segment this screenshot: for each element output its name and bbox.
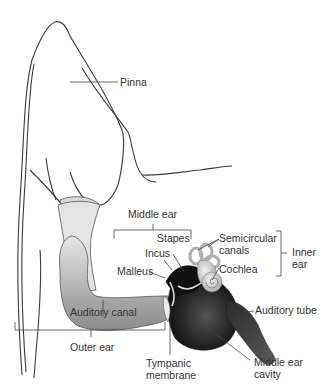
label-outer-ear: Outer ear: [70, 341, 114, 353]
label-pinna: Pinna: [120, 76, 147, 88]
label-middle-ear-cavity-2: cavity: [254, 368, 281, 380]
label-middle-ear-cavity-1: Middle ear: [254, 356, 303, 368]
label-semicircular-canals-1: Semicircular: [219, 232, 277, 244]
ear-anatomy-diagram: [0, 0, 335, 392]
label-malleus: Malleus: [117, 265, 153, 277]
label-middle-ear: Middle ear: [128, 208, 177, 220]
label-cochlea: Cochlea: [219, 263, 258, 275]
label-stapes: Stapes: [157, 232, 190, 244]
label-inner-ear-1: Inner: [292, 246, 316, 258]
label-tympanic-membrane-1: Tympanic: [146, 357, 191, 369]
label-auditory-tube: Auditory tube: [255, 304, 317, 316]
label-tympanic-membrane-2: membrane: [146, 369, 196, 381]
label-inner-ear-2: ear: [292, 258, 307, 270]
label-incus: Incus: [145, 247, 170, 259]
cochlea-shape: [202, 272, 222, 292]
label-semicircular-canals-2: canals: [219, 244, 249, 256]
label-auditory-canal: Auditory canal: [70, 306, 137, 318]
